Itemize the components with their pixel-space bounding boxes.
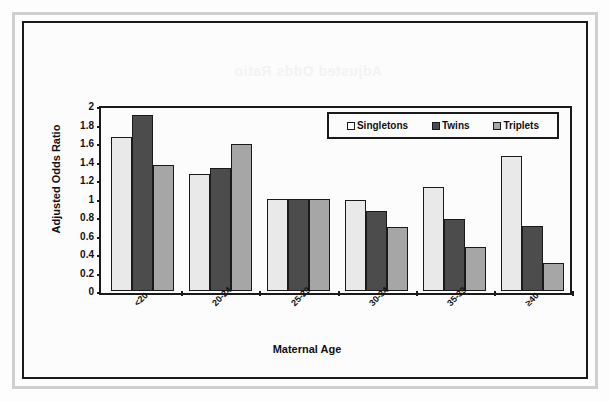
y-tick-label: 1.6 bbox=[60, 138, 94, 149]
scanned-figure-page: Adjusted Odds Ratio Adjusted Odds Ratio … bbox=[0, 0, 610, 401]
bar-twins-<20 bbox=[132, 115, 153, 291]
bar-group bbox=[181, 110, 259, 291]
x-tick-mark bbox=[259, 291, 261, 296]
legend-swatch-triplets-icon bbox=[493, 122, 501, 130]
y-tick-label: 0.6 bbox=[60, 231, 94, 242]
figure-frame: Adjusted Odds Ratio Adjusted Odds Ratio … bbox=[22, 21, 588, 379]
chart-legend: Singletons Twins Triplets bbox=[327, 112, 559, 139]
bar-singletons-30-34 bbox=[345, 200, 366, 291]
bar-triplets-20-24 bbox=[231, 144, 252, 291]
bar-twins-25-29 bbox=[288, 199, 309, 292]
y-tick-label: 0 bbox=[60, 286, 94, 297]
legend-label-0: Singletons bbox=[357, 120, 408, 131]
y-tick-mark bbox=[97, 292, 101, 294]
bar-twins-≥40 bbox=[522, 226, 543, 291]
x-axis-title: Maternal Age bbox=[24, 343, 590, 355]
bar-singletons-20-24 bbox=[189, 174, 210, 291]
y-tick-label: 0.2 bbox=[60, 268, 94, 279]
legend-label-1: Twins bbox=[442, 120, 470, 131]
y-tick-mark bbox=[97, 237, 101, 239]
bar-singletons-25-29 bbox=[267, 199, 288, 292]
x-tick-mark bbox=[181, 291, 183, 296]
bar-twins-35-39 bbox=[444, 219, 465, 291]
x-tick-mark bbox=[572, 291, 574, 296]
legend-item-0: Singletons bbox=[347, 120, 408, 131]
legend-swatch-twins-icon bbox=[432, 122, 440, 130]
y-tick-label: 1.2 bbox=[60, 175, 94, 186]
bar-group bbox=[103, 110, 181, 291]
x-tick-mark bbox=[338, 291, 340, 296]
y-tick-mark bbox=[97, 163, 101, 165]
bar-singletons-≥40 bbox=[501, 156, 522, 291]
y-tick-mark bbox=[97, 255, 101, 257]
bar-twins-30-34 bbox=[366, 211, 387, 291]
y-tick-label: 1.8 bbox=[60, 120, 94, 131]
bar-triplets-30-34 bbox=[387, 227, 408, 291]
bar-triplets-≥40 bbox=[543, 263, 564, 291]
legend-item-1: Twins bbox=[432, 120, 470, 131]
legend-label-2: Triplets bbox=[503, 120, 539, 131]
bar-triplets-35-39 bbox=[465, 247, 486, 291]
y-tick-label: 0.4 bbox=[60, 249, 94, 260]
y-tick-label: 0.8 bbox=[60, 212, 94, 223]
y-tick-mark bbox=[97, 181, 101, 183]
bar-chart: Adjusted Odds Ratio Maternal Age 21.81.6… bbox=[24, 23, 590, 381]
y-tick-mark bbox=[97, 126, 101, 128]
bar-singletons-35-39 bbox=[423, 187, 444, 291]
y-tick-mark bbox=[97, 144, 101, 146]
y-tick-mark bbox=[97, 218, 101, 220]
y-tick-label: 2 bbox=[60, 101, 94, 112]
legend-swatch-singletons-icon bbox=[347, 122, 355, 130]
y-tick-label: 1.4 bbox=[60, 157, 94, 168]
bar-twins-20-24 bbox=[210, 168, 231, 291]
legend-item-2: Triplets bbox=[493, 120, 539, 131]
x-tick-mark bbox=[494, 291, 496, 296]
bar-triplets-<20 bbox=[153, 165, 174, 291]
bar-singletons-<20 bbox=[111, 137, 132, 291]
y-tick-label: 1 bbox=[60, 194, 94, 205]
x-tick-mark bbox=[416, 291, 418, 296]
bar-group bbox=[259, 110, 337, 291]
y-tick-mark bbox=[97, 274, 101, 276]
y-tick-mark bbox=[97, 200, 101, 202]
y-tick-mark bbox=[97, 107, 101, 109]
bar-triplets-25-29 bbox=[309, 199, 330, 292]
